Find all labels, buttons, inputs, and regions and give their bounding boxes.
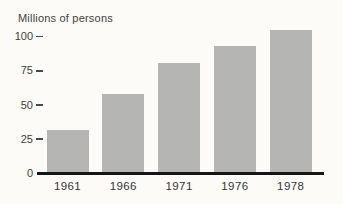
y-tick-mark-75 <box>36 70 43 72</box>
y-tick-label-75: 75 <box>0 64 33 76</box>
x-tick-label-1966: 1966 <box>95 180 151 192</box>
y-tick-mark-25 <box>36 138 43 140</box>
bar-1976 <box>214 46 256 173</box>
y-tick-label-100: 100 <box>0 30 33 42</box>
bar-1971 <box>158 63 200 174</box>
chart-title: Millions of persons <box>18 12 113 24</box>
y-tick-label-0: 0 <box>0 167 33 179</box>
x-tick-label-1976: 1976 <box>207 180 263 192</box>
x-tick-label-1978: 1978 <box>263 180 319 192</box>
bar-1966 <box>102 94 144 173</box>
y-tick-mark-50 <box>36 104 43 106</box>
bar-chart-figure: Millions of persons 02550751001961196619… <box>0 0 343 204</box>
y-tick-label-25: 25 <box>0 133 33 145</box>
x-tick-label-1961: 1961 <box>40 180 96 192</box>
y-tick-mark-100 <box>36 36 43 38</box>
bar-1961 <box>47 130 89 174</box>
x-axis-line <box>37 172 324 174</box>
y-tick-label-50: 50 <box>0 99 33 111</box>
x-tick-label-1971: 1971 <box>151 180 207 192</box>
bar-1978 <box>270 30 312 174</box>
